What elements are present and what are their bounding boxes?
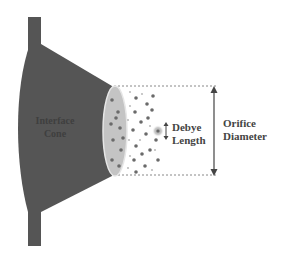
ion-particle-small [129, 91, 131, 93]
orifice-label-line2: Diameter [223, 130, 267, 142]
orifice-label-line1: Orifice [223, 117, 256, 129]
ion-particle [109, 122, 113, 126]
ion-particle [134, 144, 138, 148]
ion-particle-small [129, 105, 131, 107]
ion-particle [131, 128, 135, 132]
ion-particle [145, 102, 149, 106]
debye-length-arrow-icon [164, 122, 169, 140]
debye-label-line1: Debye [172, 121, 201, 133]
ion-particle [110, 158, 114, 162]
ion-particle-small [128, 139, 130, 141]
ion-particle [154, 138, 158, 142]
ion-particle [133, 110, 137, 114]
ion-particle [143, 164, 147, 168]
ion-particle-small [129, 155, 131, 157]
diagram-canvas: Interface Cone Debye Length Orifice Diam… [0, 0, 281, 260]
ion-particle [134, 96, 138, 100]
ion-particle-small [151, 169, 153, 171]
orifice-diameter-arrow-icon [211, 86, 218, 176]
ion-particle [132, 158, 136, 162]
ion-particle [151, 94, 155, 98]
ion-particle [140, 152, 144, 156]
ion-particle [110, 98, 114, 102]
ion-particle [111, 138, 115, 142]
ion-particle [144, 132, 148, 136]
ion-particle [118, 126, 122, 130]
ion-particle [114, 116, 118, 120]
highlight-particle [156, 129, 159, 132]
cone-label-line2: Cone [44, 128, 67, 139]
orifice-face [103, 86, 127, 176]
ion-particle [121, 136, 125, 140]
ion-particle-small [139, 139, 141, 141]
ion-particle-small [141, 93, 143, 95]
ion-particle [119, 148, 123, 152]
ion-particle [117, 164, 121, 168]
ion-particle [134, 170, 138, 174]
ion-particle [156, 158, 160, 162]
ion-particle-small [127, 167, 129, 169]
cone-label-line1: Interface [36, 115, 75, 126]
ion-particle [116, 110, 120, 114]
debye-label-line2: Length [172, 134, 206, 146]
ion-particle [150, 108, 154, 112]
ion-particle [148, 148, 152, 152]
ion-particle [139, 120, 143, 124]
ion-particle-small [127, 119, 129, 121]
ion-particle [146, 116, 150, 120]
ion-particle-small [149, 125, 151, 127]
ion-particle-small [154, 149, 156, 151]
